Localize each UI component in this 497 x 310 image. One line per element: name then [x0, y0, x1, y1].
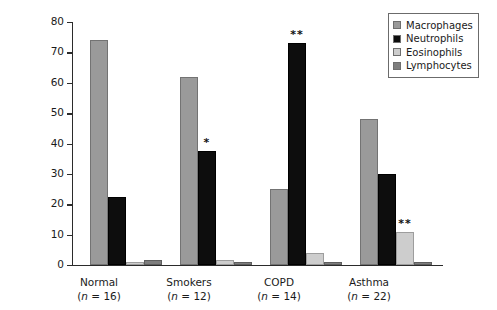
legend-swatch-neutrophils	[393, 35, 401, 43]
bar-normal-eosinophils	[126, 262, 144, 265]
y-tick-label: 50	[51, 105, 64, 120]
bar-copd-eosinophils	[306, 253, 324, 265]
y-tick-label: 80	[51, 14, 64, 29]
group-name: Smokers	[166, 276, 211, 288]
significance-marker: *	[192, 138, 222, 148]
legend-item: Macrophages	[393, 19, 473, 32]
y-tick-mark	[67, 204, 72, 205]
bar-copd-macrophages	[270, 189, 288, 265]
y-tick-mark	[67, 174, 72, 175]
chart-legend: MacrophagesNeutrophilsEosinophilsLymphoc…	[388, 13, 479, 78]
y-tick-label: 20	[51, 196, 64, 211]
y-tick-label: 0	[57, 257, 64, 272]
legend-swatch-lymphocytes	[393, 62, 401, 70]
bar-group: **	[270, 22, 342, 265]
x-axis-line	[72, 265, 443, 266]
bar-copd-lymphocytes	[324, 262, 342, 265]
group-sample-size: (n = 22)	[309, 289, 429, 303]
legend-item: Neutrophils	[393, 32, 473, 45]
bar-group: *	[180, 22, 252, 265]
bar-group	[90, 22, 162, 265]
bar-chart-figure: Cell count (% total) 01020304050607080 *…	[0, 0, 497, 310]
bar-asthma-lymphocytes	[414, 262, 432, 265]
legend-label: Macrophages	[406, 20, 473, 31]
y-tick-mark	[67, 144, 72, 145]
y-tick-label: 70	[51, 44, 64, 59]
x-axis-group-label: Asthma(n = 22)	[309, 275, 429, 303]
y-tick-label: 60	[51, 75, 64, 90]
significance-marker: **	[390, 219, 420, 229]
y-tick-label: 30	[51, 166, 64, 181]
y-tick-mark	[67, 52, 72, 53]
legend-swatch-eosinophils	[393, 48, 401, 56]
bar-normal-lymphocytes	[144, 260, 162, 265]
legend-item: Eosinophils	[393, 46, 473, 59]
legend-item: Lymphocytes	[393, 59, 473, 72]
y-tick-label: 10	[51, 227, 64, 242]
legend-label: Neutrophils	[406, 33, 463, 44]
bar-smokers-macrophages	[180, 77, 198, 265]
bar-asthma-eosinophils	[396, 232, 414, 265]
bar-copd-neutrophils	[288, 43, 306, 265]
y-tick-mark	[67, 265, 72, 266]
y-tick-label: 40	[51, 136, 64, 151]
bar-smokers-eosinophils	[216, 260, 234, 265]
y-tick-mark	[67, 113, 72, 114]
legend-label: Lymphocytes	[406, 60, 472, 71]
legend-swatch-macrophages	[393, 21, 401, 29]
y-tick-mark	[67, 83, 72, 84]
y-axis-line	[72, 22, 73, 265]
plot-area: 01020304050607080 *****	[72, 22, 384, 265]
group-name: Asthma	[349, 276, 389, 288]
y-tick-mark	[67, 235, 72, 236]
bar-normal-macrophages	[90, 40, 108, 265]
bar-smokers-lymphocytes	[234, 262, 252, 265]
group-name: COPD	[264, 276, 294, 288]
group-name: Normal	[80, 276, 118, 288]
y-tick-mark	[67, 22, 72, 23]
legend-label: Eosinophils	[406, 47, 462, 58]
bar-smokers-neutrophils	[198, 151, 216, 265]
bar-normal-neutrophils	[108, 197, 126, 265]
bar-asthma-macrophages	[360, 119, 378, 265]
significance-marker: **	[282, 30, 312, 40]
